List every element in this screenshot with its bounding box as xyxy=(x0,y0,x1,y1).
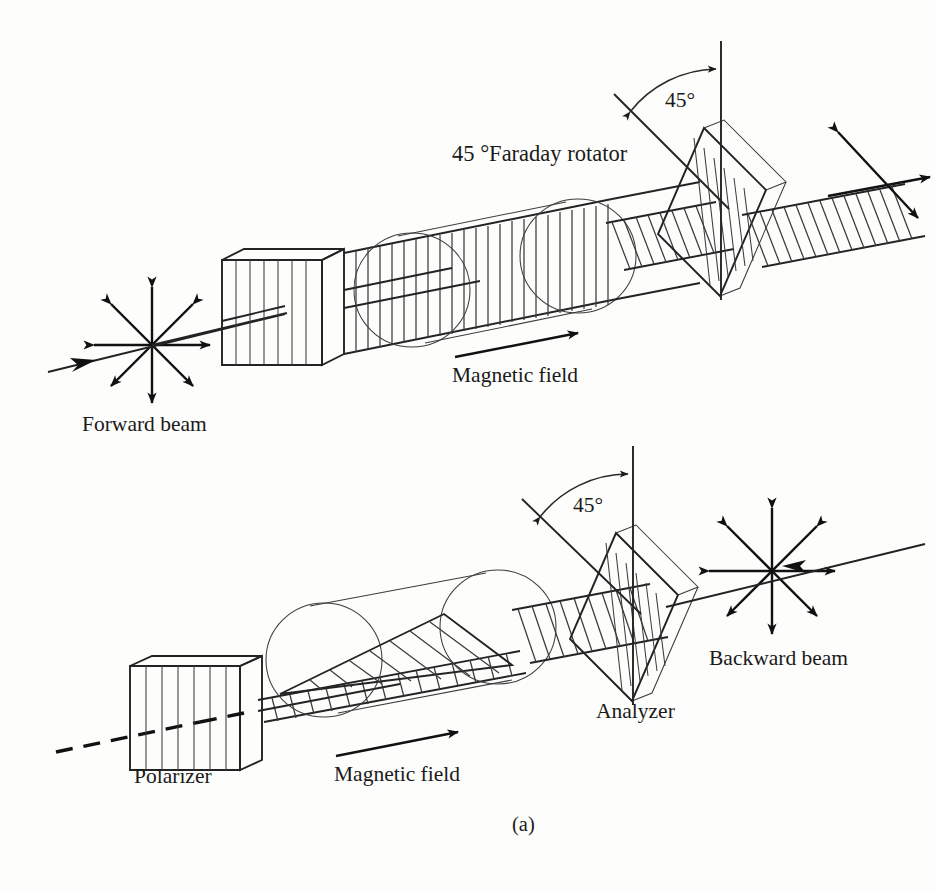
polarizer-label: Polarizer xyxy=(134,764,212,788)
forward-beam-label: Forward beam xyxy=(82,412,207,436)
faraday-rotator-cylinder xyxy=(354,199,636,347)
polarizer-block-bottom xyxy=(130,656,262,770)
magnetic-field-label-top: Magnetic field xyxy=(452,363,578,387)
analyzer-block xyxy=(658,120,786,296)
magnetic-field-label-bottom: Magnetic field xyxy=(334,762,460,786)
angle-label-top: 45° xyxy=(665,88,695,112)
polarizer-block xyxy=(222,249,344,365)
unpolarized-beam-star-bottom xyxy=(666,508,925,634)
rotator-label: 45 °Faraday rotator xyxy=(452,141,628,166)
unpolarized-beam-star xyxy=(48,287,287,403)
forward-propagation-panel: 45 °Faraday rotator 45° Magnetic field F… xyxy=(48,41,930,436)
backward-propagation-panel: 45° Backward beam Analyzer Magnetic fiel… xyxy=(56,446,925,788)
magnetic-field-arrow-top xyxy=(455,333,578,357)
analyzer-label: Analyzer xyxy=(596,699,675,723)
angle-label-bottom: 45° xyxy=(573,493,603,517)
figure-page: 45 °Faraday rotator 45° Magnetic field F… xyxy=(0,0,936,890)
vertically-polarized-beam xyxy=(344,199,612,354)
backward-beam-label: Backward beam xyxy=(709,646,848,670)
faraday-isolator-figure: 45 °Faraday rotator 45° Magnetic field F… xyxy=(0,0,936,890)
analyzer-block-bottom xyxy=(570,525,698,701)
figure-caption: (a) xyxy=(512,813,535,836)
magnetic-field-arrow-bottom xyxy=(336,732,458,756)
transmitted-beam xyxy=(742,132,930,267)
